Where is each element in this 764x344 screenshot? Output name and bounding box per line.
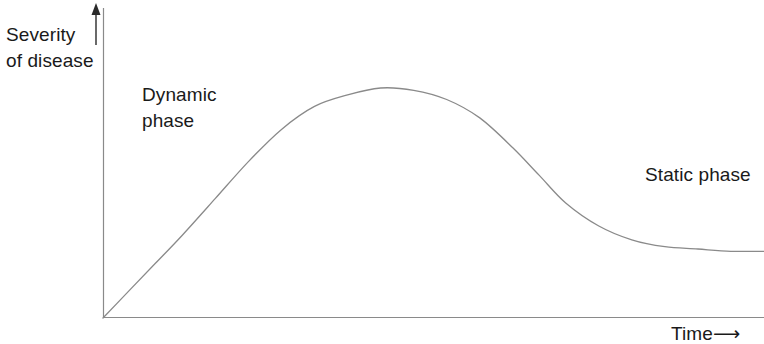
annotation-dynamic-phase: Dynamicphase [142,82,217,134]
chart-figure: Severityof disease Dynamicphase Static p… [0,0,764,344]
y-axis-label-line2: of disease [6,50,94,71]
annotation-dynamic-phase-line2: phase [142,110,194,131]
y-axis-label-line1: Severity [6,24,75,45]
x-axis-label: Time⟶ [671,320,740,344]
y-axis-label: Severityof disease [6,22,94,74]
x-axis-direction-arrow-icon: ⟶ [713,322,740,344]
annotation-static-phase: Static phase [645,162,751,188]
x-axis-label-text: Time [671,323,713,344]
annotation-dynamic-phase-line1: Dynamic [142,84,217,105]
